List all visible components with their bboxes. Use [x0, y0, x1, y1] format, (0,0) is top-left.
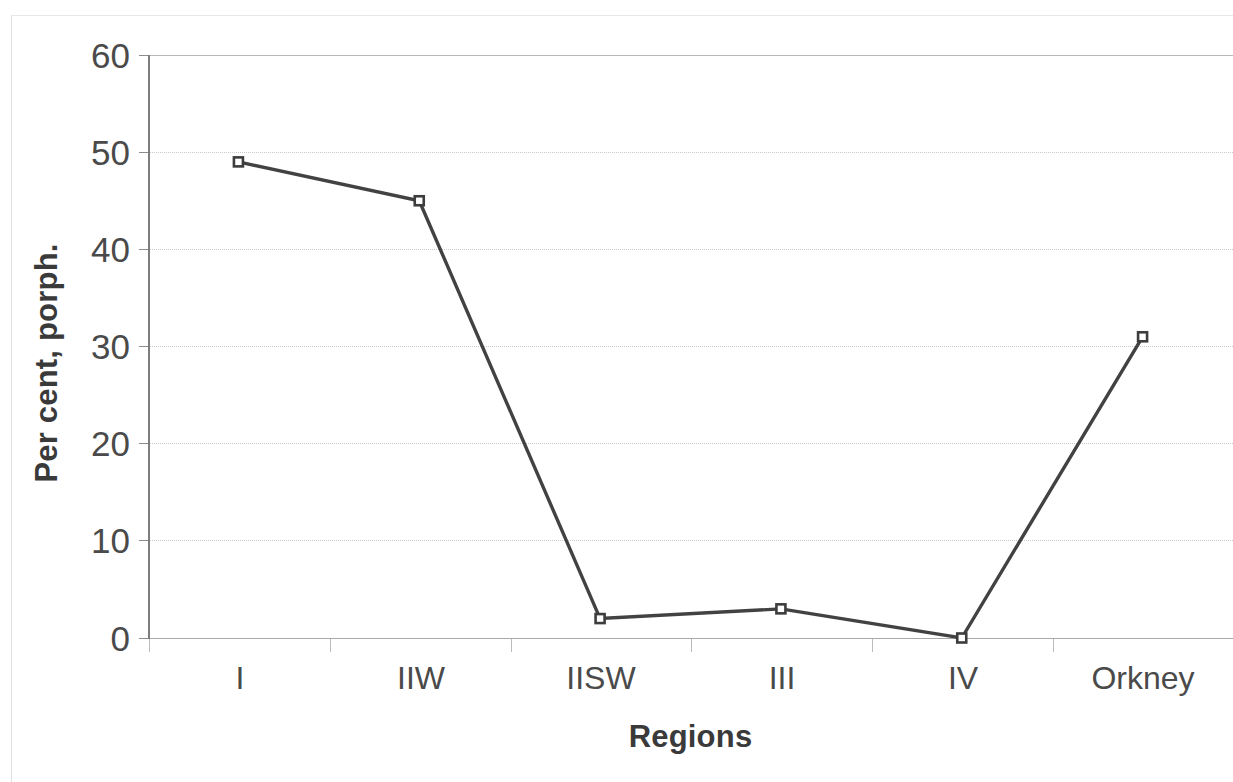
- x-tick-label-orkney: Orkney: [1091, 662, 1194, 694]
- data-point-i: [234, 157, 243, 166]
- series-line-per-cent-porph: [238, 162, 1142, 638]
- data-point-iiw: [415, 196, 424, 205]
- x-tick-label-i: I: [236, 662, 245, 694]
- data-point-iisw: [596, 614, 605, 623]
- data-point-iii: [776, 604, 785, 613]
- series-markers: [234, 157, 1147, 642]
- chart-figure: 60 50 40 30 20 10 0 I IIW IISW III IV Or…: [0, 0, 1233, 782]
- data-point-orkney: [1138, 332, 1147, 341]
- x-tick-label-iv: IV: [948, 662, 978, 694]
- data-point-iv: [957, 634, 966, 643]
- y-axis-title: Per cent, porph.: [29, 198, 65, 528]
- x-tick-label-iii: III: [769, 662, 796, 694]
- x-tick-label-iiw: IIW: [397, 662, 445, 694]
- x-axis-title: Regions: [148, 719, 1233, 755]
- x-tick-label-iisw: IISW: [566, 662, 635, 694]
